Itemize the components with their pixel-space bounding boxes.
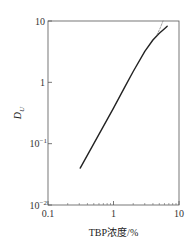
y-axis-ticks: 10110−110−2 [30,16,52,211]
y-tick-label: 10 [35,16,45,27]
y-axis-title-sub: U [18,106,26,112]
chart: 0.1110 10110−110−2 TBP浓度/% DU [0,0,192,241]
x-axis-ticks: 0.1110 [42,201,184,219]
data-series [80,21,167,168]
y-tick-label: 1 [40,77,45,88]
y-tick-label: 10−1 [30,137,48,149]
x-tick-label: 1 [111,208,116,219]
x-tick-label: 10 [174,208,184,219]
distribution-curve [80,26,167,168]
x-axis-title: TBP浓度/% [89,226,138,238]
x-tick-label: 0.1 [42,208,55,219]
plot-frame [48,21,179,205]
svg-text:DU: DU [12,106,26,120]
y-axis-title: DU [12,106,26,120]
